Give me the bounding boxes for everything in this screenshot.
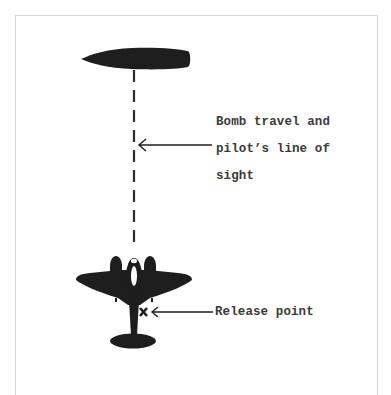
- release-point-x-marker-icon: [140, 308, 147, 316]
- aircraft-canopy-icon: [131, 266, 137, 286]
- line-of-sight-label-line-1: Bomb travel and: [216, 109, 330, 136]
- line-of-sight-label-line-3: sight: [216, 163, 330, 190]
- target-ship-icon: [81, 48, 190, 70]
- line-of-sight-label: Bomb travel and pilot’s line of sight: [216, 109, 330, 190]
- release-point-label: Release point: [215, 300, 314, 324]
- release-point-arrow-icon: [152, 307, 213, 317]
- aircraft-nose-glazing-icon: [131, 259, 137, 263]
- line-of-sight-label-line-2: pilot’s line of: [216, 136, 330, 163]
- line-of-sight-arrow-icon: [139, 139, 212, 151]
